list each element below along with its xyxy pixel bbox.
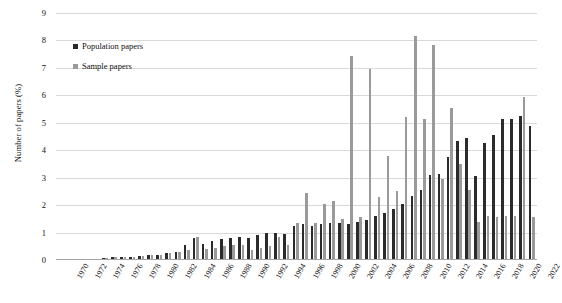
bar-population — [529, 126, 532, 260]
bar-population — [429, 175, 432, 260]
bar-group — [501, 13, 510, 260]
bar-population — [329, 223, 332, 260]
bar-population — [374, 216, 377, 260]
bar-group — [147, 13, 156, 260]
bar-population — [256, 235, 259, 260]
x-tick-label: 2016 — [492, 262, 508, 280]
legend-label-population: Population papers — [82, 41, 143, 52]
y-tick-label: 0 — [42, 255, 46, 265]
bar-population — [220, 239, 223, 260]
bar-group — [437, 13, 446, 260]
bar-group — [464, 13, 473, 260]
bar-population — [474, 176, 477, 260]
bar-group — [292, 13, 301, 260]
x-tick-label: 2002 — [365, 262, 381, 280]
x-tick-label: 2008 — [419, 262, 435, 280]
x-tick-label: 2012 — [456, 262, 472, 280]
bar-group — [210, 13, 219, 260]
x-tick-label: 1990 — [256, 262, 272, 280]
bar-sample — [532, 217, 535, 260]
bar-sample — [341, 219, 344, 260]
bar-population — [401, 204, 404, 260]
bar-group — [56, 13, 65, 260]
bar-group — [265, 13, 274, 260]
bar-sample — [242, 245, 245, 260]
bar-population — [483, 143, 486, 260]
bar-group — [319, 13, 328, 260]
bar-sample — [332, 201, 335, 260]
bar-sample — [459, 164, 462, 260]
y-tick-label: 9 — [42, 8, 46, 18]
bar-sample — [287, 245, 290, 260]
bar-group — [283, 13, 292, 260]
bar-population — [247, 238, 250, 260]
bar-sample — [514, 216, 517, 260]
bar-group — [247, 13, 256, 260]
x-tick-label: 1982 — [183, 262, 199, 280]
bar-group — [183, 13, 192, 260]
bar-sample — [396, 191, 399, 260]
bar-population — [501, 119, 504, 260]
bar-population — [420, 190, 423, 260]
bar-population — [365, 220, 368, 260]
bar-sample — [223, 246, 226, 260]
bar-population — [229, 238, 232, 260]
bar-population — [347, 224, 350, 260]
x-tick-label: 1994 — [292, 262, 308, 280]
bar-sample — [305, 193, 308, 260]
x-tick-label: 1992 — [274, 262, 290, 280]
bar-population — [283, 234, 286, 260]
bar-group — [510, 13, 519, 260]
bar-group — [392, 13, 401, 260]
x-tick-label: 2018 — [510, 262, 526, 280]
bar-sample — [423, 119, 426, 260]
bar-population — [383, 213, 386, 260]
bar-group — [192, 13, 201, 260]
legend-swatch-population — [73, 44, 78, 49]
x-tick-label: 1988 — [238, 262, 254, 280]
bar-group — [156, 13, 165, 260]
bar-sample — [450, 108, 453, 260]
bar-population — [238, 237, 241, 260]
bar-sample — [269, 246, 272, 260]
bar-group — [483, 13, 492, 260]
bar-sample — [523, 97, 526, 260]
bar-sample — [323, 204, 326, 260]
bar-population — [211, 241, 214, 260]
x-tick-label: 2006 — [401, 262, 417, 280]
bar-population — [465, 138, 468, 260]
bar-population — [392, 209, 395, 260]
bar-group — [383, 13, 392, 260]
chart-legend: Population papers Sample papers — [73, 41, 143, 81]
bar-group — [428, 13, 437, 260]
bar-group — [301, 13, 310, 260]
bar-group — [528, 13, 537, 260]
bar-sample — [232, 245, 235, 260]
bar-group — [201, 13, 210, 260]
bar-sample — [441, 179, 444, 260]
bar-population — [447, 157, 450, 260]
x-tick-label: 2004 — [383, 262, 399, 280]
bar-sample — [505, 216, 508, 260]
bar-group — [492, 13, 501, 260]
y-axis-tick-labels: 0123456789 — [0, 13, 52, 260]
x-tick-label: 2022 — [546, 262, 562, 280]
x-tick-label: 1974 — [111, 262, 127, 280]
bar-group — [473, 13, 482, 260]
bar-population — [184, 245, 187, 260]
x-tick-label: 1986 — [220, 262, 236, 280]
bar-population — [456, 141, 459, 260]
bar-group — [274, 13, 283, 260]
bar-sample — [468, 190, 471, 260]
bar-group — [346, 13, 355, 260]
bar-population — [438, 174, 441, 260]
bar-sample — [405, 117, 408, 260]
bar-population — [193, 238, 196, 260]
bar-sample — [359, 217, 362, 260]
y-tick-label: 8 — [42, 35, 46, 45]
bar-population — [320, 224, 323, 260]
x-tick-label: 1980 — [165, 262, 181, 280]
bar-group — [410, 13, 419, 260]
bar-population — [274, 233, 277, 260]
bar-sample — [477, 222, 480, 260]
